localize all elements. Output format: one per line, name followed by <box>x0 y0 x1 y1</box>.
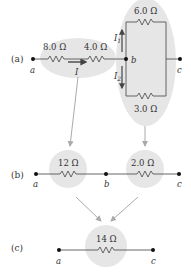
node-c-label: c <box>177 179 182 189</box>
equivalent-12-highlight <box>49 150 87 188</box>
node-a <box>34 172 38 176</box>
resistor-2-label: 2.0 Ω <box>131 158 154 168</box>
resistor-3-label: 3.0 Ω <box>134 104 157 114</box>
circuit-diagram: (a) a b c 8.0 Ω 4.0 Ω 6.0 Ω <box>0 0 191 276</box>
resistor-14-label: 14 Ω <box>96 234 117 244</box>
node-a-label: a <box>56 256 61 266</box>
reduction-arrow-right <box>111 197 138 221</box>
panel-c-label: (c) <box>11 243 23 253</box>
reduction-arrow-series <box>70 77 78 146</box>
panel-a-label: (a) <box>11 54 23 64</box>
panel-b-label: (b) <box>11 170 24 180</box>
panel-a: (a) a b c 8.0 Ω 4.0 Ω 6.0 Ω <box>11 0 182 126</box>
node-c <box>151 248 155 252</box>
resistor-8-label: 8.0 Ω <box>43 42 66 52</box>
node-c-label: c <box>151 256 156 266</box>
node-c <box>177 172 181 176</box>
equivalent-2-highlight <box>126 150 164 188</box>
current-main-label: I <box>74 67 79 77</box>
node-c-label: c <box>177 65 182 75</box>
node-b-label: b <box>104 179 109 189</box>
node-a <box>31 57 35 61</box>
reduction-arrow-left <box>76 197 101 221</box>
node-b <box>104 172 108 176</box>
node-b <box>124 57 128 61</box>
resistor-4-label: 4.0 Ω <box>84 42 107 52</box>
node-a <box>57 248 61 252</box>
resistor-6-label: 6.0 Ω <box>134 6 157 16</box>
node-b-label: b <box>131 55 136 65</box>
resistor-12-label: 12 Ω <box>58 158 79 168</box>
node-a-label: a <box>30 65 35 75</box>
node-c <box>178 57 182 61</box>
panel-c: (c) a c 14 Ω <box>11 225 156 267</box>
panel-b: (b) a b c 12 Ω 2.0 Ω <box>11 150 182 189</box>
node-a-label: a <box>33 179 38 189</box>
